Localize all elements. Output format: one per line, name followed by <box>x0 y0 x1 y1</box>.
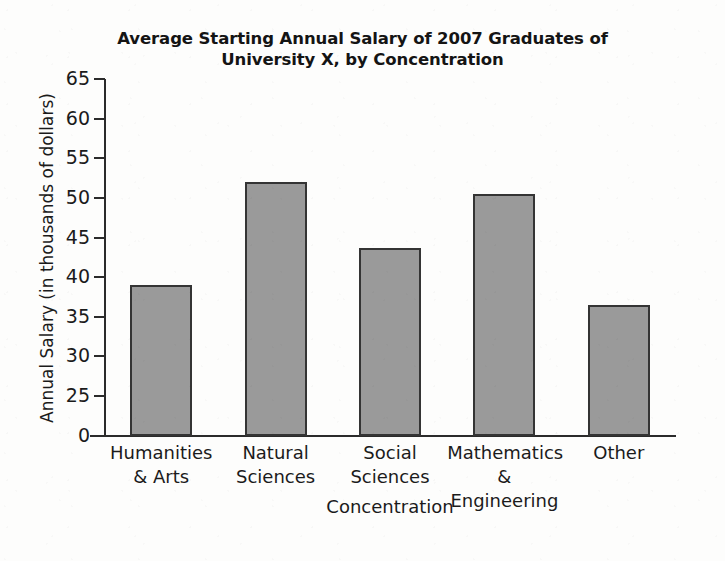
y-axis-tick-label-60: 60 <box>56 109 90 128</box>
x-axis-category-labels: Humanities& ArtsNaturalSciencesSocialSci… <box>104 441 676 495</box>
category-label-line-2: Sciences <box>333 465 447 489</box>
chart-title-line-1: Average Starting Annual Salary of 2007 G… <box>117 29 608 48</box>
y-axis-tick-label-30: 30 <box>56 346 90 365</box>
category-label-line-1: Other <box>593 442 644 463</box>
category-label-line-1: Natural <box>242 442 308 463</box>
y-axis-tick-label-25: 25 <box>56 386 90 405</box>
category-label-other: Other <box>562 441 676 465</box>
chart-title-line-2: University X, by Concentration <box>90 49 635 70</box>
y-axis-tick-label-45: 45 <box>56 228 90 247</box>
y-axis-tick-label-65: 65 <box>56 69 90 88</box>
y-axis-tick-label-0: 0 <box>56 426 90 445</box>
y-axis-tick-label-35: 35 <box>56 307 90 326</box>
bar-social-sciences <box>359 248 421 436</box>
y-axis-tick-label-50: 50 <box>56 188 90 207</box>
bars-layer <box>104 79 676 436</box>
category-label-line-2: & Arts <box>104 465 218 489</box>
x-axis-title: Concentration <box>104 496 676 517</box>
bar-chart-figure: Average Starting Annual Salary of 2007 G… <box>0 0 725 561</box>
category-label-line-2: Sciences <box>218 465 332 489</box>
category-label-line-1: Social <box>363 442 416 463</box>
category-label-line-1: Humanities <box>110 442 212 463</box>
category-label-social-sciences: SocialSciences <box>333 441 447 489</box>
bar-other <box>588 305 650 436</box>
chart-title: Average Starting Annual Salary of 2007 G… <box>90 28 635 70</box>
category-label-humanities-arts: Humanities& Arts <box>104 441 218 489</box>
y-axis-tick-labels: 6560555045403530250 <box>52 0 90 561</box>
category-label-natural-sciences: NaturalSciences <box>218 441 332 489</box>
bar-natural-sciences <box>245 182 307 436</box>
y-axis-tick-label-40: 40 <box>56 267 90 286</box>
bar-humanities-arts <box>130 285 192 436</box>
bar-mathematics-engineering <box>473 194 535 436</box>
y-axis-tick-label-55: 55 <box>56 148 90 167</box>
category-label-line-1: Mathematics & <box>447 442 563 487</box>
